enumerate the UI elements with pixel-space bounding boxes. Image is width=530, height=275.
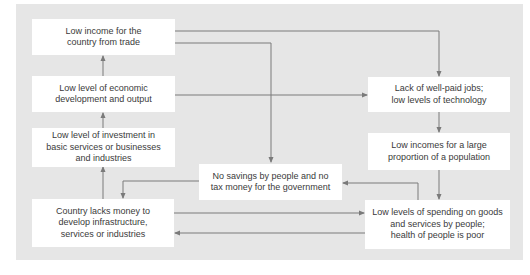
node-low-spending: Low levels of spending on goods and serv… (365, 200, 510, 249)
arrow-trade-to-jobs (175, 31, 439, 76)
arrow-trade-to-savings (175, 43, 271, 162)
node-no-savings: No savings by people and no tax money fo… (199, 164, 342, 200)
node-lacks-money: Country lacks money to develop infrastru… (32, 199, 174, 247)
arrow-savings-to-lacksmoney (123, 181, 199, 198)
node-low-incomes-population: Low incomes for a large proportion of a … (368, 133, 510, 170)
arrow-spending-to-savings (343, 183, 418, 200)
node-low-development: Low level of economic development and ou… (32, 76, 175, 112)
figure-caption-cropped (16, 264, 126, 275)
node-low-income-trade: Low income for the country from trade (32, 19, 175, 55)
node-low-investment: Low level of investment in basic service… (32, 128, 175, 167)
node-lack-jobs: Lack of well-paid jobs; low levels of te… (368, 77, 510, 112)
